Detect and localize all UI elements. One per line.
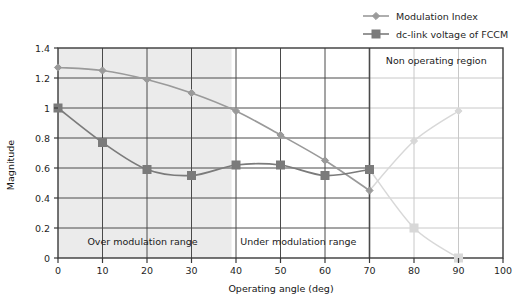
x-tick-label: 0	[55, 265, 61, 276]
data-point	[277, 161, 285, 169]
x-tick-label: 20	[141, 265, 153, 276]
data-point-faded	[410, 224, 418, 232]
data-point	[321, 172, 329, 180]
y-tick-label: 0.4	[35, 193, 50, 204]
x-tick-label: 100	[494, 265, 512, 276]
x-tick-label: 80	[408, 265, 420, 276]
over-modulation-range-label: Over modulation range	[87, 236, 197, 247]
y-tick-label: 1	[44, 103, 50, 114]
x-axis-title: Operating angle (deg)	[228, 283, 333, 294]
chart-container: 010203040506070809010000.20.40.60.811.21…	[0, 0, 526, 303]
y-axis-title: Magnitude	[5, 140, 16, 190]
y-tick-label: 1.4	[35, 43, 50, 54]
y-tick-label: 0.2	[35, 223, 50, 234]
data-point	[188, 172, 196, 180]
x-tick-label: 60	[319, 265, 331, 276]
y-tick-label: 0.8	[35, 133, 50, 144]
data-point	[366, 166, 374, 174]
x-tick-label: 40	[230, 265, 242, 276]
x-tick-label: 30	[185, 265, 197, 276]
y-tick-label: 0.6	[35, 163, 50, 174]
y-tick-label: 0	[44, 253, 50, 264]
legend-marker-square-icon	[372, 30, 380, 38]
x-tick-label: 50	[274, 265, 286, 276]
x-tick-label: 10	[96, 265, 108, 276]
data-point	[232, 161, 240, 169]
non-operating-region-label: Non operating region	[386, 55, 487, 66]
legend-label: dc-link voltage of FCCM	[396, 29, 508, 40]
data-point	[99, 139, 107, 147]
y-tick-label: 1.2	[35, 73, 50, 84]
under-modulation-range-label: Under modulation range	[240, 236, 356, 247]
x-tick-label: 70	[363, 265, 375, 276]
magnitude-vs-operating-angle-chart: 010203040506070809010000.20.40.60.811.21…	[0, 0, 526, 303]
x-tick-label: 90	[452, 265, 464, 276]
data-point	[143, 166, 151, 174]
legend-label: Modulation Index	[396, 11, 478, 22]
